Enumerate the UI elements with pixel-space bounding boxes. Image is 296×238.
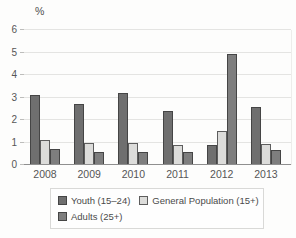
bar-group-2009: 2009 [74, 30, 104, 165]
legend-item: Adults (25+) [58, 211, 123, 222]
legend-item: General Population (15+) [139, 195, 258, 206]
legend-item: Youth (15–24) [58, 195, 130, 206]
bar [227, 54, 237, 165]
bar [74, 104, 84, 165]
y-tick-label: 5 [11, 48, 17, 58]
y-axis-unit-label: % [35, 5, 44, 17]
bar [138, 152, 148, 166]
bar [30, 95, 40, 165]
bar [251, 107, 261, 166]
bar-group-2008: 2008 [30, 30, 60, 165]
legend: Youth (15–24)General Population (15+)Adu… [50, 188, 264, 229]
legend-label: Youth (15–24) [71, 195, 130, 206]
bar [271, 150, 281, 165]
bar [50, 149, 60, 165]
legend-swatch [58, 212, 67, 221]
plot-area: 0123456 200820092010201120122013 [24, 30, 292, 165]
bar [128, 143, 138, 166]
bars-area: 200820092010201120122013 [24, 30, 291, 165]
legend-label: Adults (25+) [71, 211, 123, 222]
bar [173, 145, 183, 165]
bar-chart: % 0123456 200820092010201120122013 Youth… [0, 0, 296, 238]
bar [84, 143, 94, 166]
bar [94, 152, 104, 166]
bar-group-2010: 2010 [118, 30, 148, 165]
y-tick-label: 3 [11, 93, 17, 103]
bar [183, 152, 193, 166]
x-tick-label: 2008 [33, 168, 56, 180]
bar-group-2011: 2011 [163, 30, 193, 165]
x-tick-label: 2009 [78, 168, 101, 180]
bar-group-2012: 2012 [207, 30, 237, 165]
bar [261, 144, 271, 165]
x-tick-label: 2011 [166, 168, 189, 180]
y-tick-label: 4 [11, 70, 17, 80]
bar [163, 111, 173, 165]
bar-group-2013: 2013 [251, 30, 281, 165]
y-tick-label: 1 [11, 138, 17, 148]
x-axis-line [24, 164, 291, 165]
bar [118, 93, 128, 165]
y-tick-label: 2 [11, 115, 17, 125]
bar [217, 131, 227, 165]
x-tick-label: 2012 [210, 168, 233, 180]
legend-swatch [139, 196, 148, 205]
bar [207, 145, 217, 165]
legend-row: Youth (15–24)General Population (15+) [58, 195, 256, 206]
bar [40, 140, 50, 165]
x-tick-label: 2013 [254, 168, 277, 180]
y-tick-label: 0 [11, 160, 17, 170]
x-tick-label: 2010 [122, 168, 145, 180]
legend-row: Adults (25+) [58, 211, 256, 222]
legend-swatch [58, 196, 67, 205]
y-tick-label: 6 [11, 25, 17, 35]
legend-label: General Population (15+) [152, 195, 258, 206]
